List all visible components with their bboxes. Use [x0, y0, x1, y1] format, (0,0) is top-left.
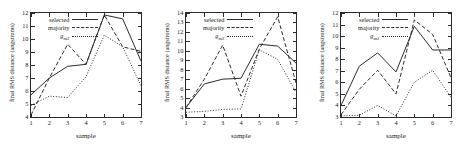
y-tick-label: 11 [22, 23, 28, 29]
y-tick-label: 12 [332, 10, 338, 16]
y-tick-label: 4 [180, 104, 183, 110]
legend-swatch-line [227, 36, 253, 37]
x-tick-label: 4 [239, 120, 242, 126]
y-tick-label: 14 [177, 10, 183, 16]
x-tick-label: 4 [84, 120, 87, 126]
legend-item-gm2: gm2 [203, 32, 253, 41]
x-tick-label: 2 [358, 120, 361, 126]
legend-item-selected: selected [358, 15, 408, 24]
x-tick-label: 4 [394, 120, 397, 126]
legend-swatch-gm2 [72, 34, 98, 39]
x-tick-label: 3 [66, 120, 69, 126]
x-tick-label: 6 [121, 120, 124, 126]
y-tick-label: 8 [335, 56, 338, 62]
y-axis-label-text: final RMS distance (angstroms) [8, 23, 15, 102]
legend-swatch-line [382, 19, 408, 20]
legend-item-selected: selected [48, 15, 98, 24]
x-tick-label: 7 [139, 120, 142, 126]
legend-swatch-majority [227, 25, 253, 30]
x-tick-label: 5 [103, 120, 106, 126]
y-tick-label: 10 [332, 33, 338, 39]
y-tick-label: 12 [22, 10, 28, 16]
legend: selectedmajoritygm2 [203, 15, 253, 41]
y-tick-label: 11 [332, 21, 338, 27]
legend-item-gm2: gm2 [358, 32, 408, 41]
x-axis-label: sample [185, 132, 297, 140]
legend-label-majority: majority [48, 24, 69, 31]
y-axis-label: final RMS distance (angstroms) [159, 0, 173, 125]
legend: selectedmajoritygm2 [48, 15, 98, 41]
y-tick-label: 12 [177, 29, 183, 35]
legend-swatch-selected [382, 17, 408, 22]
legend-swatch-majority [72, 25, 98, 30]
y-tick-label: 3 [335, 114, 338, 120]
x-tick-label: 3 [376, 120, 379, 126]
x-tick-mark-top [451, 13, 452, 17]
y-tick-label: 9 [335, 44, 338, 50]
x-tick-label: 3 [221, 120, 224, 126]
x-tick-label: 7 [294, 120, 297, 126]
legend-label-gm2: gm2 [370, 32, 379, 41]
y-axis-label-text: final RMS distance (angstroms) [163, 23, 170, 102]
figure-container: final RMS distance (angstroms)4567891011… [0, 0, 464, 147]
legend: selectedmajoritygm2 [358, 15, 408, 41]
legend-item-selected: selected [203, 15, 253, 24]
legend-label-gm2-subscript: m2 [63, 36, 69, 41]
legend-label-gm2: gm2 [215, 32, 224, 41]
legend-item-gm2: gm2 [48, 32, 98, 41]
legend-swatch-line [72, 27, 98, 28]
y-tick-label: 11 [177, 38, 183, 44]
legend-swatch-line [382, 27, 408, 28]
x-tick-label: 5 [413, 120, 416, 126]
x-tick-label: 1 [339, 120, 342, 126]
legend-label-majority: majority [358, 24, 379, 31]
legend-swatch-selected [72, 17, 98, 22]
x-tick-mark [451, 114, 452, 118]
x-tick-mark [141, 114, 142, 118]
y-tick-label: 9 [180, 57, 183, 63]
y-tick-label: 5 [180, 95, 183, 101]
y-tick-label: 5 [335, 91, 338, 97]
x-axis-label: sample [30, 132, 142, 140]
y-tick-label: 5 [25, 101, 28, 107]
y-tick-label: 9 [25, 49, 28, 55]
x-tick-mark-top [296, 13, 297, 17]
y-tick-label: 10 [22, 36, 28, 42]
y-tick-label: 7 [180, 76, 183, 82]
legend-swatch-selected [227, 17, 253, 22]
series-line-gm2 [186, 50, 296, 112]
x-tick-label: 6 [276, 120, 279, 126]
x-tick-label: 2 [203, 120, 206, 126]
legend-label-gm2-subscript: m2 [373, 36, 379, 41]
x-tick-mark-top [141, 13, 142, 17]
y-tick-label: 6 [25, 88, 28, 94]
legend-item-majority: majority [358, 24, 408, 33]
y-tick-label: 4 [25, 114, 28, 120]
legend-swatch-line [72, 36, 98, 37]
legend-swatch-gm2 [227, 34, 253, 39]
y-axis-label-text: final RMS distance (angstroms) [318, 23, 325, 102]
legend-label-gm2: gm2 [60, 32, 69, 41]
panel-left: final RMS distance (angstroms)4567891011… [0, 0, 154, 147]
y-tick-label: 8 [180, 67, 183, 73]
y-tick-label: 3 [180, 114, 183, 120]
y-tick-label: 7 [25, 75, 28, 81]
legend-item-majority: majority [48, 24, 98, 33]
y-tick-label: 13 [177, 19, 183, 25]
legend-label-gm2-subscript: m2 [218, 36, 224, 41]
legend-swatch-line [382, 36, 408, 37]
panel-middle: final RMS distance (angstroms)3456789101… [155, 0, 309, 147]
legend-item-majority: majority [203, 24, 253, 33]
series-line-selected [186, 44, 296, 107]
y-tick-label: 8 [25, 62, 28, 68]
x-tick-label: 1 [29, 120, 32, 126]
legend-label-majority: majority [203, 24, 224, 31]
legend-swatch-line [227, 27, 253, 28]
x-tick-label: 1 [184, 120, 187, 126]
x-tick-label: 5 [258, 120, 261, 126]
legend-swatch-majority [382, 25, 408, 30]
legend-swatch-line [227, 19, 253, 20]
x-tick-label: 2 [48, 120, 51, 126]
panel-right: final RMS distance (angstroms)3456789101… [310, 0, 464, 147]
y-axis-label: final RMS distance (angstroms) [4, 0, 18, 125]
